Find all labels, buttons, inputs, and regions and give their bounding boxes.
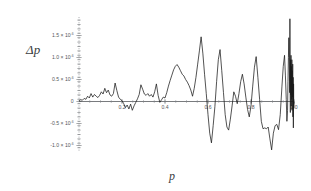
y-tick-label: -0.5 × 10-6 — [50, 120, 73, 126]
y-tick-label: 0.5 × 10-6 — [52, 76, 74, 82]
y-tick-label: -1.0 × 10-6 — [50, 142, 73, 148]
y-tick-label: 1.0 × 10-6 — [52, 54, 74, 60]
y-tick-label: 0 — [71, 98, 74, 104]
x-tick-label: 0.4 — [161, 104, 168, 110]
x-tick-label: 0.2 — [118, 104, 125, 110]
x-axis-title: p — [168, 169, 175, 183]
x-tick-label: 0.6 — [204, 104, 211, 110]
y-tick-label: 1.5 × 10-6 — [52, 32, 74, 38]
y-axis-title: Δp — [25, 42, 41, 57]
chart-figure: -1.0 × 10-6-0.5 × 10-600.5 × 10-61.0 × 1… — [0, 0, 311, 191]
line-chart: -1.0 × 10-6-0.5 × 10-600.5 × 10-61.0 × 1… — [0, 0, 311, 191]
chart-background — [0, 0, 311, 191]
